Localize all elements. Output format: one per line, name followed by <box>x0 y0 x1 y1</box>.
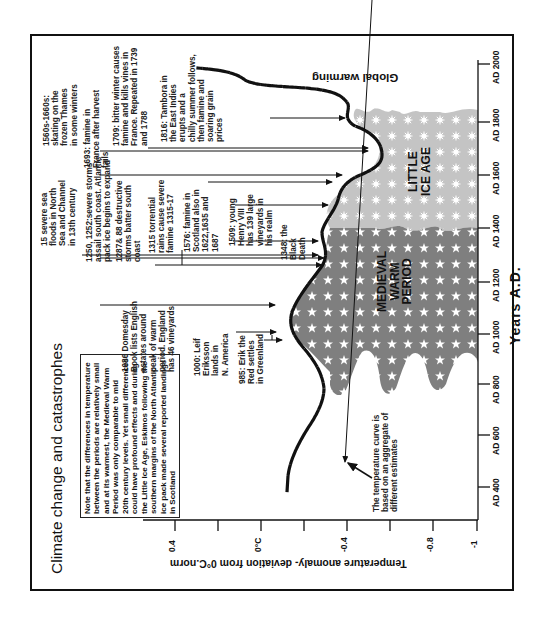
annotation-line: 1086 Domesday <box>121 301 130 372</box>
year-tick-label: AD 1200 <box>492 268 502 302</box>
note-box: Note that the differences in temperature… <box>80 354 180 518</box>
year-tick-label: AD 1800 <box>492 108 502 142</box>
little-ice-age-label: LITTLE ICE AGE <box>407 147 432 196</box>
annotation-line: has 46 vineyards <box>167 301 176 372</box>
curve-note: The temperature curve is based on an agg… <box>372 413 400 512</box>
note-line: between the periods are relatively small <box>92 358 101 514</box>
annotation-1287-storms: 1287& 88 destructive storms batter south… <box>115 181 143 262</box>
little-ice-age-region <box>327 108 478 231</box>
annotation-line: 1816: Tambora in <box>160 54 169 142</box>
year-tick-label: AD 1600 <box>492 161 502 195</box>
note-line: in Scotland <box>168 358 177 514</box>
annotation-line: his realm <box>265 194 274 246</box>
temp-tick-label: 0.4 <box>168 540 178 552</box>
annotation-line: famine 1315-17 <box>166 180 175 253</box>
annotation-985-erik-the-red: 985: Erik the Red settles in Greenland <box>238 334 266 384</box>
curve-note-line: based on an aggregate of <box>381 413 390 512</box>
annotation-line: 1287& 88 destructive <box>115 181 124 262</box>
annotation-line: chilly summer follows, <box>188 54 197 142</box>
annotation-line: Eriksson <box>202 334 211 376</box>
annotation-line: N. America <box>221 334 230 376</box>
annotation-line: the East Indies <box>169 54 178 142</box>
temp-tick-label: -0.8 <box>426 537 436 552</box>
annotation-line: period. England <box>158 301 167 372</box>
annotation-line: prices <box>215 54 224 142</box>
curve-note-arrow <box>348 463 372 478</box>
annotation-line: soaring grain <box>206 54 215 142</box>
annotation-1576-famine: 1576: famine in Scotland also in 1622,16… <box>183 189 220 252</box>
annotation-line: rains cause severe <box>157 180 166 253</box>
annotation-line: pack ice begins to expand <box>103 157 112 262</box>
annotation-line: 1250, 1252:severe storms <box>85 157 94 262</box>
annotation-line: 1709: bitter winter causes <box>112 46 121 146</box>
annotation-1315-rains: 1315 torrential rains cause severe famin… <box>148 180 176 253</box>
annotation-1709-winter: 1709: bitter winter causes famine and ki… <box>112 46 149 146</box>
annotation-line: 1509: young <box>228 194 237 246</box>
annotation-line: 1315 torrential <box>148 180 157 253</box>
annotation-line: France after harvest <box>92 90 101 168</box>
annotation-line: skating on the <box>51 84 60 146</box>
annotation-line: Black <box>289 225 298 261</box>
annotation-line: floods in North <box>49 180 58 246</box>
y-axis-title: Temperature anomaly- deviation from 0°C.… <box>170 558 407 570</box>
annotation-line: 15 severe sea <box>40 180 49 246</box>
annotation-line: 1693: famine in <box>83 90 92 168</box>
chart-graphics <box>0 0 543 622</box>
note-line: could have profound effects and during <box>130 358 139 514</box>
annotation-1816-tambora: 1816: Tambora in the East Indies erupts … <box>160 54 224 142</box>
annotation-line: peak of warm <box>149 301 158 372</box>
annotation-line: 1687 <box>211 189 220 252</box>
annotation-line: Scotland also in <box>192 189 201 252</box>
temp-tick-label: -0.4 <box>340 537 350 552</box>
year-tick-label: AD 1400 <box>492 214 502 248</box>
annotation-1560s-skating: 1560s-1660s: skating on the frozen Thame… <box>42 84 79 146</box>
year-tick-label: AD 2000 <box>492 50 502 84</box>
global-warming-label: Global warming <box>312 72 398 84</box>
period-label-line: PERIOD <box>401 251 414 312</box>
note-line: ice pack made several reported landings <box>159 358 168 514</box>
chart-title: Climate change and catastrophes <box>48 343 65 574</box>
annotation-line: Red settles <box>247 334 256 384</box>
chart-stage: Climate change and catastrophes Note tha… <box>0 0 543 622</box>
note-line: and at its warmest, the Medieval Warm <box>102 358 111 514</box>
annotation-line: has 139 large <box>246 194 255 246</box>
annotation-line: in 13th century <box>68 180 77 246</box>
annotation-line: 1560s-1660s: <box>42 84 51 146</box>
annotation-line: 1000: Leif <box>193 334 202 376</box>
annotation-line: assail south coast. Atlantic <box>94 157 103 262</box>
annotation-line: erupts and a <box>178 54 187 142</box>
annotation-line: famine and kills vines in <box>121 46 130 146</box>
annotation-line: 1622,1635 and <box>201 189 210 252</box>
x-axis-title: Years A.D. <box>508 266 524 345</box>
annotation-line: in Greenland <box>256 334 265 384</box>
annotation-line: vineyards in <box>256 194 265 246</box>
annotation-line: lands in <box>211 334 220 376</box>
year-ticks <box>478 64 490 487</box>
year-tick-label: AD 800 <box>492 375 502 404</box>
annotation-line: coast <box>133 181 142 262</box>
annotation-line: and 1788 <box>140 46 149 146</box>
note-line: Period was only comparable to mid <box>111 358 120 514</box>
temp-tick-label: 0°C <box>254 538 264 552</box>
period-label-line: LITTLE <box>407 147 420 196</box>
annotation-line: 1348: the <box>280 225 289 261</box>
annotation-line: in some winters <box>70 84 79 146</box>
note-line: southern margins of the North Atlantic <box>149 358 158 514</box>
medieval-warm-period-label: MEDIEVAL WARM PERIOD <box>376 251 414 312</box>
period-label-line: ICE AGE <box>420 147 433 196</box>
temperature-ticks <box>175 520 477 531</box>
annotation-line: frozen Thames <box>60 84 69 146</box>
annotation-1250-storms: 1250, 1252:severe storms assail south co… <box>85 157 113 262</box>
annotation-line: then famine and <box>197 54 206 142</box>
annotation-1348-black-death: 1348: the Black Death <box>280 225 308 261</box>
annotation-line: estates around <box>139 301 148 372</box>
period-label-line: MEDIEVAL <box>376 251 389 312</box>
annotation-1000-leif-erikson: 1000: Leif Eriksson lands in N. America <box>193 334 230 376</box>
annotation-line: Henry VIII <box>237 194 246 246</box>
annotation-line: storms batter south <box>124 181 133 262</box>
annotation-line: Death <box>298 225 307 261</box>
annotation-line: Sea and Channel <box>58 180 67 246</box>
annotation-line: France. Repeated in 1739 <box>130 46 139 146</box>
note-line: the Little Ice Age, Eskimos following th… <box>140 358 149 514</box>
curve-note-line: different estimates <box>390 413 399 512</box>
